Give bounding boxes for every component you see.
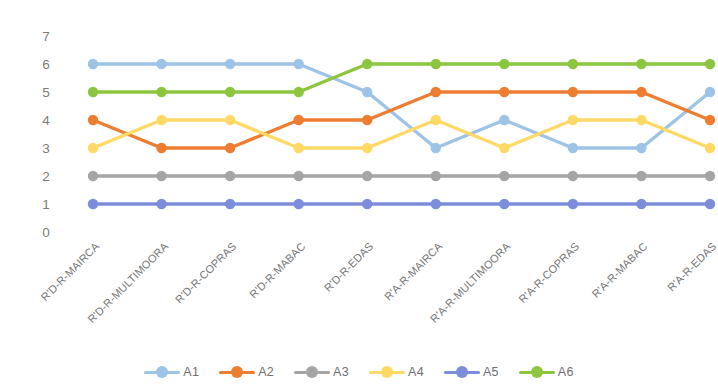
data-point[interactable] xyxy=(636,59,646,69)
data-point[interactable] xyxy=(705,199,715,209)
series-line-a6 xyxy=(93,64,710,92)
legend-swatch-icon xyxy=(519,366,555,378)
data-point[interactable] xyxy=(88,59,98,69)
legend-item-a2[interactable]: A2 xyxy=(219,365,274,379)
legend-item-a5[interactable]: A5 xyxy=(444,365,499,379)
data-point[interactable] xyxy=(499,59,509,69)
data-point[interactable] xyxy=(156,87,166,97)
legend-dot xyxy=(381,366,393,378)
data-point[interactable] xyxy=(568,87,578,97)
data-point[interactable] xyxy=(499,199,509,209)
legend-item-a1[interactable]: A1 xyxy=(144,365,199,379)
data-point[interactable] xyxy=(705,59,715,69)
legend-label: A3 xyxy=(333,365,349,379)
data-point[interactable] xyxy=(568,115,578,125)
plot-svg xyxy=(0,0,718,250)
legend-label: A5 xyxy=(483,365,499,379)
data-point[interactable] xyxy=(636,87,646,97)
legend-label: A4 xyxy=(408,365,424,379)
data-point[interactable] xyxy=(225,199,235,209)
data-point[interactable] xyxy=(499,87,509,97)
x-axis: R'D-R-MAIRCAR'D-R-MULTIMOORAR'D-R-COPRAS… xyxy=(0,236,718,346)
data-point[interactable] xyxy=(568,171,578,181)
data-point[interactable] xyxy=(225,87,235,97)
legend-swatch-icon xyxy=(219,366,255,378)
data-point[interactable] xyxy=(431,115,441,125)
data-point[interactable] xyxy=(293,87,303,97)
data-point[interactable] xyxy=(568,143,578,153)
legend-label: A1 xyxy=(183,365,199,379)
data-point[interactable] xyxy=(88,115,98,125)
legend-dot xyxy=(456,366,468,378)
legend-dot xyxy=(306,366,318,378)
data-point[interactable] xyxy=(88,87,98,97)
data-point[interactable] xyxy=(293,199,303,209)
data-point[interactable] xyxy=(156,115,166,125)
legend-label: A2 xyxy=(258,365,274,379)
data-point[interactable] xyxy=(705,115,715,125)
data-point[interactable] xyxy=(156,59,166,69)
data-point[interactable] xyxy=(225,59,235,69)
data-point[interactable] xyxy=(568,59,578,69)
line-chart: 76543210 R'D-R-MAIRCAR'D-R-MULTIMOORAR'D… xyxy=(0,0,718,388)
data-point[interactable] xyxy=(431,199,441,209)
data-point[interactable] xyxy=(88,171,98,181)
legend-dot xyxy=(156,366,168,378)
data-point[interactable] xyxy=(362,59,372,69)
legend-item-a3[interactable]: A3 xyxy=(294,365,349,379)
data-point[interactable] xyxy=(499,143,509,153)
data-point[interactable] xyxy=(362,115,372,125)
data-point[interactable] xyxy=(431,87,441,97)
legend-swatch-icon xyxy=(369,366,405,378)
data-point[interactable] xyxy=(362,199,372,209)
data-point[interactable] xyxy=(499,115,509,125)
series-a3 xyxy=(88,171,715,181)
data-point[interactable] xyxy=(499,171,509,181)
data-point[interactable] xyxy=(156,171,166,181)
data-point[interactable] xyxy=(225,171,235,181)
legend-dot xyxy=(531,366,543,378)
data-point[interactable] xyxy=(362,171,372,181)
data-point[interactable] xyxy=(705,143,715,153)
data-point[interactable] xyxy=(431,171,441,181)
data-point[interactable] xyxy=(293,143,303,153)
data-point[interactable] xyxy=(225,115,235,125)
data-point[interactable] xyxy=(225,143,235,153)
series-line-a4 xyxy=(93,120,710,148)
data-point[interactable] xyxy=(636,115,646,125)
data-point[interactable] xyxy=(362,87,372,97)
data-point[interactable] xyxy=(636,171,646,181)
legend-swatch-icon xyxy=(444,366,480,378)
series-a5 xyxy=(88,199,715,209)
chart-legend: A1A2A3A4A5A6 xyxy=(0,358,718,386)
data-point[interactable] xyxy=(431,143,441,153)
data-point[interactable] xyxy=(362,143,372,153)
data-point[interactable] xyxy=(156,143,166,153)
legend-swatch-icon xyxy=(294,366,330,378)
data-point[interactable] xyxy=(88,199,98,209)
data-point[interactable] xyxy=(705,171,715,181)
data-point[interactable] xyxy=(636,199,646,209)
data-point[interactable] xyxy=(293,115,303,125)
plot-area xyxy=(0,0,718,250)
legend-item-a4[interactable]: A4 xyxy=(369,365,424,379)
data-point[interactable] xyxy=(156,199,166,209)
legend-dot xyxy=(231,366,243,378)
data-point[interactable] xyxy=(705,87,715,97)
data-point[interactable] xyxy=(88,143,98,153)
legend-label: A6 xyxy=(558,365,574,379)
legend-swatch-icon xyxy=(144,366,180,378)
data-point[interactable] xyxy=(431,59,441,69)
data-point[interactable] xyxy=(568,199,578,209)
data-point[interactable] xyxy=(293,171,303,181)
data-point[interactable] xyxy=(293,59,303,69)
data-point[interactable] xyxy=(636,143,646,153)
legend-item-a6[interactable]: A6 xyxy=(519,365,574,379)
